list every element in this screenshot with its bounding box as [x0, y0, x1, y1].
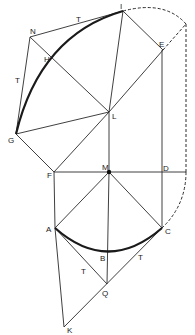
line-C-K: [64, 228, 162, 327]
dashed-arc-top: [123, 8, 186, 24]
line-M-C: [109, 172, 162, 228]
dashed-arc-right: [162, 172, 186, 228]
line-F-A: [54, 172, 55, 228]
line-N-L: [30, 37, 109, 112]
line-A-K: [55, 228, 64, 327]
label-I: I: [120, 2, 122, 11]
label-H: H: [44, 55, 50, 64]
label-B: B: [100, 254, 105, 263]
label-E: E: [159, 40, 164, 49]
line-L-F: [54, 112, 109, 172]
label-K: K: [67, 326, 73, 335]
label-C: C: [165, 227, 171, 236]
label-F: F: [47, 171, 52, 180]
dashed-line-E: [163, 24, 186, 50]
tangent-label-AQ: T: [81, 267, 86, 276]
line-N-G: [16, 37, 30, 134]
geometry-diagram: I E N H G L F M D A C B Q K T T T T: [0, 0, 195, 335]
label-A: A: [46, 225, 52, 234]
line-M-Q: [107, 172, 109, 284]
label-M: M: [102, 163, 109, 172]
tangent-label-NG: T: [15, 76, 20, 85]
label-L: L: [112, 112, 117, 121]
line-G-F: [16, 134, 54, 172]
label-N: N: [30, 27, 36, 36]
line-I-L: [109, 11, 123, 112]
label-Q: Q: [102, 289, 108, 298]
tangent-label-NI: T: [76, 15, 81, 24]
label-G: G: [8, 136, 14, 145]
line-G-L: [16, 112, 109, 134]
line-E-L: [109, 50, 163, 112]
line-I-E: [123, 11, 163, 50]
line-M-A: [55, 172, 109, 228]
tangent-label-CQ: T: [138, 253, 143, 262]
label-D: D: [163, 164, 169, 173]
arc-A-C: [55, 228, 162, 252]
